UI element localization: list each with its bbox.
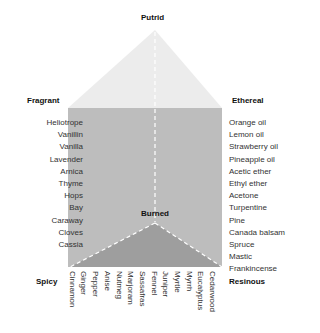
list-item: Thyme <box>47 178 83 190</box>
list-item: Acetone <box>229 190 285 202</box>
list-item: Turpentine <box>229 202 285 214</box>
fragrant-list: Heliotrope Vanillin Vanilla Lavender Arn… <box>47 117 83 251</box>
list-item: Acetic ether <box>229 166 285 178</box>
list-item: Mastic <box>229 251 285 263</box>
list-item: Frankincense <box>229 263 285 275</box>
list-item: Pineapple oil <box>229 154 285 166</box>
list-item: Caraway <box>47 215 83 227</box>
corner-label-resinous: Resinous <box>229 277 265 286</box>
list-item: Bay <box>47 202 83 214</box>
list-item: Fennel <box>148 271 160 295</box>
corner-label-spicy: Spicy <box>36 277 57 286</box>
list-item: Vanilla <box>47 141 83 153</box>
list-item: Orange oil <box>229 117 285 129</box>
list-item: Cedarwood <box>206 271 218 312</box>
list-item: Ethyl ether <box>229 178 285 190</box>
list-item: Heliotrope <box>47 117 83 129</box>
list-item: Arnica <box>47 166 83 178</box>
corner-label-ethereal: Ethereal <box>232 96 264 105</box>
list-item: Anise <box>101 271 113 291</box>
list-item: Pine <box>229 215 285 227</box>
list-item: Lavender <box>47 154 83 166</box>
ethereal-resinous-list: Orange oil Lemon oil Strawberry oil Pine… <box>229 117 285 276</box>
corner-label-putrid: Putrid <box>141 13 164 22</box>
list-item: Lemon oil <box>229 129 285 141</box>
list-item: Canada balsam <box>229 227 285 239</box>
list-item: Juniper <box>160 271 172 297</box>
list-item: Myrtle <box>171 271 183 293</box>
top-face <box>68 30 222 108</box>
list-item: Ginger <box>78 271 90 295</box>
list-item: Vanillin <box>47 129 83 141</box>
list-item: Marjoram <box>125 271 137 305</box>
list-item: Spruce <box>229 239 285 251</box>
list-item: Pepper <box>89 271 101 297</box>
list-item: Hops <box>47 190 83 202</box>
list-item: Cassia <box>47 239 83 251</box>
corner-label-fragrant: Fragrant <box>27 96 59 105</box>
list-item: Nutmeg <box>113 271 125 299</box>
corner-label-burned: Burned <box>141 209 169 218</box>
list-item: Cloves <box>47 227 83 239</box>
list-item: Sassafras <box>136 271 148 307</box>
list-item: Cinnamon <box>66 271 78 307</box>
list-item: Eucalyptus <box>195 271 207 310</box>
list-item: Strawberry oil <box>229 141 285 153</box>
list-item: Myrrh <box>183 271 195 291</box>
